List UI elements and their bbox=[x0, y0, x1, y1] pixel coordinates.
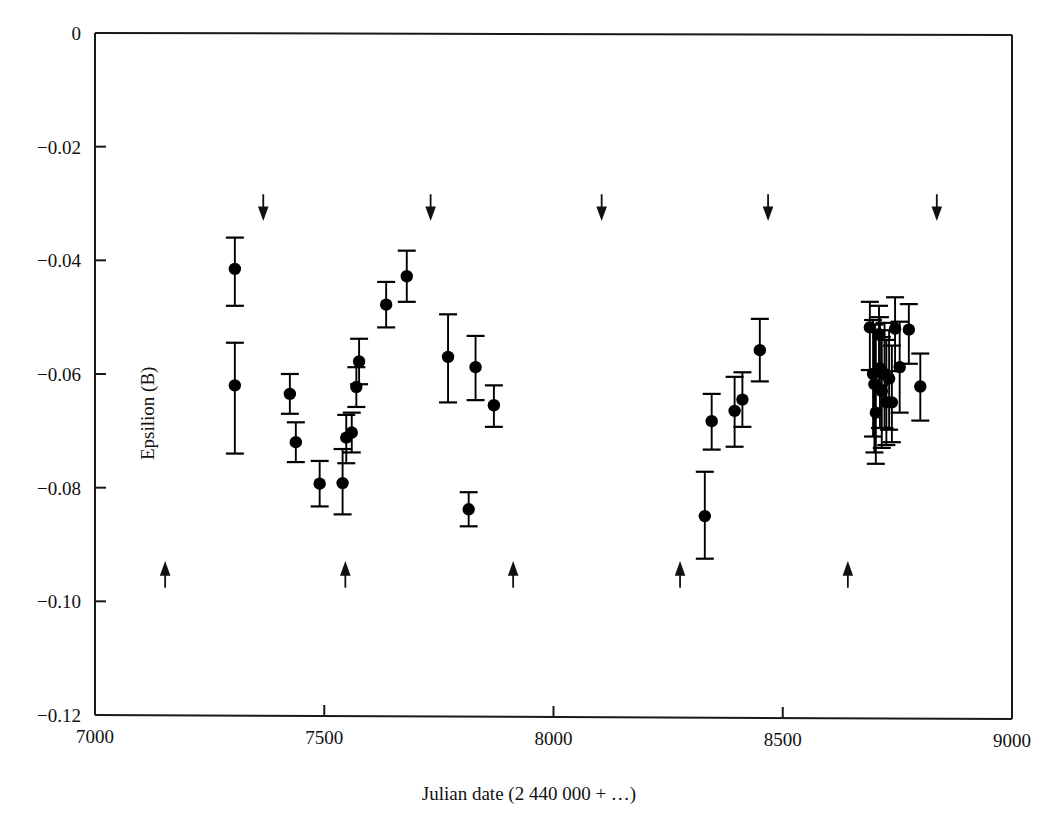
arrow-down-marker bbox=[259, 194, 267, 218]
y-axis-title-text: Epsilion (B) bbox=[137, 367, 159, 460]
data-point bbox=[226, 343, 244, 454]
y-axis-title: Epsilion (B) bbox=[137, 460, 230, 482]
y-axis-tick-label: −0.12 bbox=[37, 705, 81, 726]
data-point bbox=[485, 385, 503, 426]
data-marker bbox=[736, 393, 748, 405]
data-point bbox=[334, 449, 352, 514]
data-point bbox=[696, 472, 714, 559]
x-axis-title: Julian date (2 440 000 + …) bbox=[0, 783, 1058, 805]
y-axis-tick-label: 0 bbox=[72, 23, 82, 44]
arrow-down-marker bbox=[764, 194, 772, 218]
data-marker bbox=[229, 263, 241, 275]
y-axis-tick-label: −0.10 bbox=[37, 591, 81, 612]
arrow-up-marker bbox=[676, 564, 684, 588]
data-point bbox=[439, 314, 457, 402]
data-marker bbox=[886, 396, 898, 408]
data-marker bbox=[284, 388, 296, 400]
data-point bbox=[751, 319, 769, 382]
data-point bbox=[703, 394, 721, 450]
data-point bbox=[467, 336, 485, 400]
data-marker bbox=[336, 477, 348, 489]
data-point bbox=[377, 282, 395, 327]
data-point bbox=[347, 367, 365, 407]
data-point bbox=[287, 422, 305, 462]
data-marker bbox=[728, 405, 740, 417]
data-marker bbox=[350, 381, 362, 393]
data-marker bbox=[488, 399, 500, 411]
data-point bbox=[726, 377, 744, 447]
figure-page: 0−0.02−0.04−0.06−0.08−0.10−0.12700075008… bbox=[0, 0, 1058, 833]
data-point bbox=[281, 374, 299, 414]
data-point bbox=[900, 304, 918, 364]
data-marker bbox=[883, 372, 895, 384]
arrow-down-marker bbox=[933, 194, 941, 218]
data-marker bbox=[401, 270, 413, 282]
data-point bbox=[733, 372, 751, 427]
data-point bbox=[226, 238, 244, 306]
data-marker bbox=[346, 426, 358, 438]
arrow-up-marker bbox=[161, 564, 169, 588]
data-marker bbox=[229, 379, 241, 391]
data-marker bbox=[903, 323, 915, 335]
data-marker bbox=[699, 510, 711, 522]
arrow-up-marker bbox=[844, 564, 852, 588]
data-marker bbox=[754, 344, 766, 356]
arrow-up-marker bbox=[509, 564, 517, 588]
data-marker bbox=[380, 298, 392, 310]
y-axis-tick-label: −0.02 bbox=[37, 137, 81, 158]
data-marker bbox=[290, 436, 302, 448]
x-axis-tick-label: 7500 bbox=[305, 727, 343, 748]
y-axis-tick-label: −0.06 bbox=[37, 364, 81, 385]
y-axis-tick-label: −0.04 bbox=[37, 250, 81, 271]
data-marker bbox=[705, 415, 717, 427]
x-axis-tick-label: 7000 bbox=[76, 726, 114, 747]
data-marker bbox=[442, 351, 454, 363]
data-marker bbox=[353, 355, 365, 367]
data-marker bbox=[469, 361, 481, 373]
x-axis-tick-label: 8500 bbox=[764, 729, 802, 750]
axis-frame-top bbox=[95, 33, 1012, 35]
data-marker bbox=[462, 503, 474, 515]
arrow-down-marker bbox=[598, 194, 606, 218]
data-point bbox=[398, 251, 416, 302]
arrow-down-marker bbox=[427, 194, 435, 218]
x-axis-tick-label: 8000 bbox=[535, 728, 573, 749]
arrow-up-marker bbox=[341, 564, 349, 588]
data-point bbox=[460, 492, 478, 526]
data-marker bbox=[313, 477, 325, 489]
data-point bbox=[350, 339, 368, 384]
y-axis-tick-label: −0.08 bbox=[37, 478, 81, 499]
data-point bbox=[311, 461, 329, 506]
data-marker bbox=[914, 380, 926, 392]
x-axis-tick-label: 9000 bbox=[993, 730, 1031, 751]
